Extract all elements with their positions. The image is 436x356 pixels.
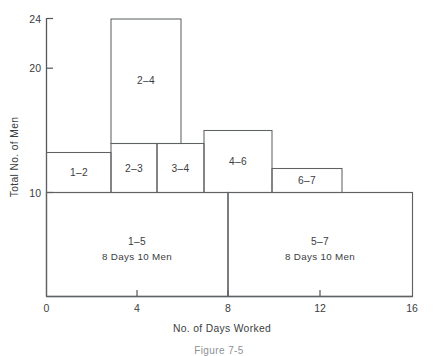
y-axis-ticks: 24 20 10	[29, 13, 53, 199]
x-axis-title: No. of Days Worked	[173, 323, 271, 334]
x-axis-ticks: 0 4 8 12 16	[44, 290, 418, 314]
bar-1-2-label: 1–2	[70, 167, 88, 178]
x-tick-label-0: 0	[44, 302, 50, 314]
figure-caption: Figure 7-5	[194, 345, 244, 356]
figure-container: 24 20 10 0 4 8 12 16 1–5 8 Days 10 Men 5…	[0, 0, 436, 356]
y-tick-label-20: 20	[29, 62, 41, 74]
x-tick-label-16: 16	[406, 302, 418, 314]
bar-2-3-label: 2–3	[125, 163, 143, 174]
y-axis-title: Total No. of Men	[9, 117, 20, 198]
base-block-5-7-sublabel: 8 Days 10 Men	[285, 251, 355, 262]
bar-4-6-label: 4–6	[229, 156, 247, 167]
bar-3-4-label: 3–4	[171, 163, 189, 174]
base-blocks-group: 1–5 8 Days 10 Men 5–7 8 Days 10 Men	[47, 193, 413, 297]
y-tick-label-10: 10	[29, 187, 41, 199]
bar-6-7-label: 6–7	[298, 175, 316, 186]
x-tick-label-8: 8	[225, 302, 231, 314]
base-block-1-5-label: 1–5	[128, 236, 146, 247]
bars-group: 1–2 2–3 3–4 2–4 4–6 6–7	[47, 19, 343, 193]
x-tick-label-4: 4	[134, 302, 140, 314]
base-block-5-7-label: 5–7	[311, 236, 329, 247]
x-tick-label-12: 12	[314, 302, 326, 314]
base-block-1-5-sublabel: 8 Days 10 Men	[102, 251, 172, 262]
histogram-chart: 24 20 10 0 4 8 12 16 1–5 8 Days 10 Men 5…	[0, 0, 436, 356]
bar-2-4-label: 2–4	[137, 75, 155, 86]
y-tick-label-24: 24	[29, 13, 41, 25]
